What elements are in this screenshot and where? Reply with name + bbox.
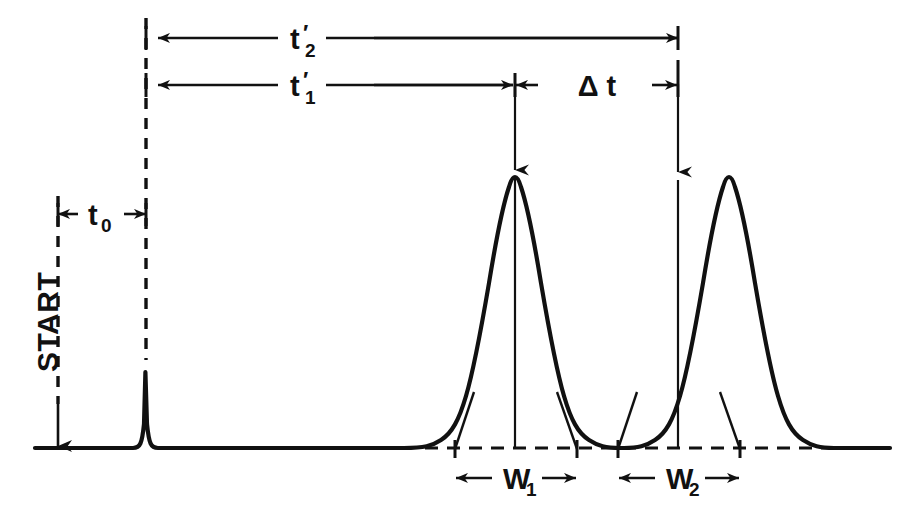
t2-label-base-top: t bbox=[290, 23, 300, 55]
chromatogram-svg: START t 0 t ′ 2 t ′ 2 bbox=[0, 0, 923, 512]
dimension-delta-t: Δ t bbox=[516, 60, 678, 102]
tangent-lines bbox=[455, 392, 740, 449]
dimension-w2: W 2 bbox=[619, 463, 739, 500]
dimension-t0: t 0 bbox=[58, 199, 146, 236]
peak-2-tangent-right bbox=[720, 392, 740, 449]
t1-label-base: t bbox=[290, 70, 300, 102]
t0-label-subscript: 0 bbox=[101, 215, 112, 236]
t1-label-subscript: 1 bbox=[305, 87, 316, 108]
chromatogram-figure: START t 0 t ′ 2 t ′ 2 bbox=[0, 0, 923, 512]
t2-label-backdrop bbox=[278, 16, 326, 64]
t0-label-base: t bbox=[88, 199, 98, 231]
delta-t-label: Δ t bbox=[578, 70, 617, 102]
w1-label-subscript: 1 bbox=[526, 479, 537, 500]
dimension-w1: W 1 bbox=[456, 463, 576, 500]
trace-path bbox=[35, 177, 890, 448]
start-label: START bbox=[31, 272, 64, 372]
dimension-t2-prime: t ′ 2 bbox=[146, 20, 678, 61]
t1-label-backdrop bbox=[278, 63, 326, 111]
w2-label-subscript: 2 bbox=[689, 479, 700, 500]
t2-label-subscript-top: 2 bbox=[305, 40, 316, 61]
dimension-t1-prime bbox=[146, 73, 515, 97]
peak-2-tangent-left bbox=[618, 392, 637, 449]
start-marker-group: START bbox=[31, 196, 64, 446]
detector-trace bbox=[35, 177, 890, 448]
